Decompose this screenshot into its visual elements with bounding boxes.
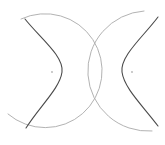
right-focus-dot [131, 71, 133, 73]
conic-diagram [0, 0, 165, 145]
left-focus-dot [51, 71, 53, 73]
left-hyperbola-branch [25, 19, 62, 128]
right-hyperbola-branch [122, 17, 158, 126]
right-circle-arc [88, 11, 152, 131]
